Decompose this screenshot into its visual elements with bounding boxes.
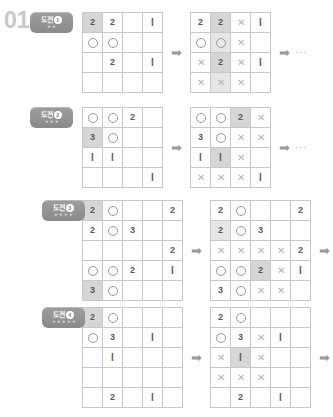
- grid-cell[interactable]: ✕: [251, 108, 270, 127]
- grid-cell[interactable]: l: [143, 53, 162, 72]
- grid-cell[interactable]: [143, 73, 162, 92]
- grid-cell[interactable]: [123, 281, 142, 300]
- grid-cell[interactable]: [83, 261, 102, 280]
- grid-cell[interactable]: [163, 348, 182, 367]
- grid-cell[interactable]: [123, 53, 142, 72]
- grid-cell[interactable]: [211, 108, 230, 127]
- grid-cell[interactable]: [103, 73, 122, 92]
- grid-cell[interactable]: [291, 348, 310, 367]
- grid-cell[interactable]: 2: [123, 261, 142, 280]
- grid-cell[interactable]: l: [83, 148, 102, 167]
- grid-cell[interactable]: ✕: [231, 368, 250, 387]
- grid-cell[interactable]: 3: [211, 281, 230, 300]
- grid-cell[interactable]: [291, 281, 310, 300]
- grid-cell[interactable]: [103, 241, 122, 260]
- grid-cell[interactable]: [83, 108, 102, 127]
- grid-cell[interactable]: l: [143, 13, 162, 32]
- grid-cell[interactable]: 3: [83, 281, 102, 300]
- grid-cell[interactable]: 2: [191, 13, 210, 32]
- grid-cell[interactable]: [143, 108, 162, 127]
- grid-cell[interactable]: ✕: [231, 33, 250, 52]
- grid-cell[interactable]: [251, 33, 270, 52]
- grid-cell[interactable]: [123, 241, 142, 260]
- grid-cell[interactable]: 3: [83, 128, 102, 147]
- grid-cell[interactable]: [143, 128, 162, 147]
- grid-cell[interactable]: [291, 221, 310, 240]
- grid-cell[interactable]: l: [143, 168, 162, 187]
- grid-cell[interactable]: [123, 73, 142, 92]
- grid-cell[interactable]: 2: [163, 241, 182, 260]
- grid-cell[interactable]: [291, 388, 310, 407]
- grid-cell[interactable]: 2: [211, 221, 230, 240]
- grid-cell[interactable]: l: [191, 148, 210, 167]
- grid-cell[interactable]: 2: [231, 388, 250, 407]
- grid-cell[interactable]: l: [231, 348, 250, 367]
- grid-cell[interactable]: [143, 241, 162, 260]
- grid-cell[interactable]: [163, 308, 182, 327]
- grid-cell[interactable]: ✕: [211, 168, 230, 187]
- grid-cell[interactable]: [231, 201, 250, 220]
- grid-cell[interactable]: [211, 128, 230, 147]
- grid-cell[interactable]: ✕: [211, 368, 230, 387]
- grid-cell[interactable]: [103, 168, 122, 187]
- grid-cell[interactable]: [231, 308, 250, 327]
- grid-cell[interactable]: ✕: [271, 241, 290, 260]
- grid-cell[interactable]: l: [163, 261, 182, 280]
- grid-cell[interactable]: [83, 73, 102, 92]
- grid-cell[interactable]: [103, 221, 122, 240]
- grid-cell[interactable]: 2: [83, 13, 102, 32]
- grid-cell[interactable]: [123, 328, 142, 347]
- grid-cell[interactable]: [143, 201, 162, 220]
- grid-cell[interactable]: 2: [83, 308, 102, 327]
- grid-cell[interactable]: 2: [211, 13, 230, 32]
- grid-cell[interactable]: [83, 53, 102, 72]
- grid-cell[interactable]: [163, 368, 182, 387]
- grid-cell[interactable]: [83, 168, 102, 187]
- grid-cell[interactable]: [231, 261, 250, 280]
- grid-cell[interactable]: l: [103, 348, 122, 367]
- grid-cell[interactable]: ✕: [191, 73, 210, 92]
- grid-cell[interactable]: l: [251, 13, 270, 32]
- grid-cell[interactable]: [271, 308, 290, 327]
- grid-cell[interactable]: ✕: [251, 128, 270, 147]
- grid-cell[interactable]: ✕: [251, 328, 270, 347]
- grid-cell[interactable]: l: [251, 53, 270, 72]
- grid-cell[interactable]: [191, 108, 210, 127]
- grid-cell[interactable]: [83, 241, 102, 260]
- grid-cell[interactable]: [251, 308, 270, 327]
- grid-cell[interactable]: ✕: [191, 53, 210, 72]
- grid-cell[interactable]: ✕: [251, 348, 270, 367]
- grid-cell[interactable]: 2: [83, 201, 102, 220]
- grid-cell[interactable]: 2: [103, 53, 122, 72]
- grid-cell[interactable]: 2: [123, 108, 142, 127]
- grid-cell[interactable]: [83, 33, 102, 52]
- grid-cell[interactable]: [271, 368, 290, 387]
- grid-cell[interactable]: [123, 148, 142, 167]
- grid-cell[interactable]: ✕: [191, 168, 210, 187]
- grid-cell[interactable]: ✕: [211, 348, 230, 367]
- grid-cell[interactable]: 2: [231, 108, 250, 127]
- grid-cell[interactable]: [291, 368, 310, 387]
- grid-cell[interactable]: [211, 388, 230, 407]
- grid-cell[interactable]: l: [271, 328, 290, 347]
- grid-cell[interactable]: [123, 201, 142, 220]
- grid-cell[interactable]: [103, 33, 122, 52]
- grid-cell[interactable]: ✕: [231, 148, 250, 167]
- grid-cell[interactable]: l: [211, 148, 230, 167]
- grid-cell[interactable]: 3: [231, 328, 250, 347]
- grid-cell[interactable]: l: [143, 388, 162, 407]
- grid-cell[interactable]: ✕: [231, 168, 250, 187]
- grid-cell[interactable]: [143, 348, 162, 367]
- grid-cell[interactable]: [83, 388, 102, 407]
- grid-cell[interactable]: ✕: [231, 241, 250, 260]
- grid-cell[interactable]: [143, 148, 162, 167]
- grid-cell[interactable]: ✕: [271, 281, 290, 300]
- grid-cell[interactable]: 2: [103, 388, 122, 407]
- grid-cell[interactable]: 2: [103, 13, 122, 32]
- grid-cell[interactable]: [231, 281, 250, 300]
- grid-cell[interactable]: [83, 328, 102, 347]
- grid-cell[interactable]: [251, 73, 270, 92]
- grid-cell[interactable]: [163, 221, 182, 240]
- grid-cell[interactable]: ✕: [271, 261, 290, 280]
- grid-cell[interactable]: ✕: [251, 368, 270, 387]
